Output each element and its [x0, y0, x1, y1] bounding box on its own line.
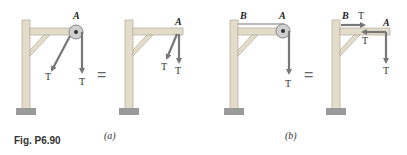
- frame-b-left: [224, 20, 290, 115]
- force-arrow-icon: [52, 36, 70, 70]
- force-label-t: T: [383, 65, 389, 76]
- frame-a-right: [119, 20, 183, 115]
- force-label-t: T: [362, 35, 368, 46]
- panel-label-a: (a): [104, 130, 116, 142]
- force-label-t: T: [175, 65, 181, 76]
- force-label-t: T: [358, 10, 364, 21]
- point-label-a: A: [72, 10, 80, 21]
- figure-canvas: A T T = A T T (a) B A T = B A T: [0, 0, 407, 155]
- panel-label-b: (b): [285, 130, 297, 142]
- point-label-a: A: [278, 10, 286, 21]
- frame-b-right: [326, 20, 390, 115]
- point-label-b: B: [341, 10, 349, 21]
- force-label-t: T: [285, 78, 291, 89]
- force-label-t: T: [161, 61, 167, 72]
- point-label-b: B: [239, 10, 247, 21]
- force-label-t: T: [45, 71, 51, 82]
- point-label-a: A: [174, 16, 182, 27]
- point-label-a: A: [382, 17, 390, 28]
- equals-sign: =: [304, 66, 313, 83]
- force-arrow-icon: [167, 34, 177, 58]
- equals-sign: =: [97, 66, 106, 83]
- frame-a-left: [16, 20, 83, 115]
- figure-caption: Fig. P6.90: [14, 135, 61, 146]
- force-label-t: T: [79, 76, 85, 87]
